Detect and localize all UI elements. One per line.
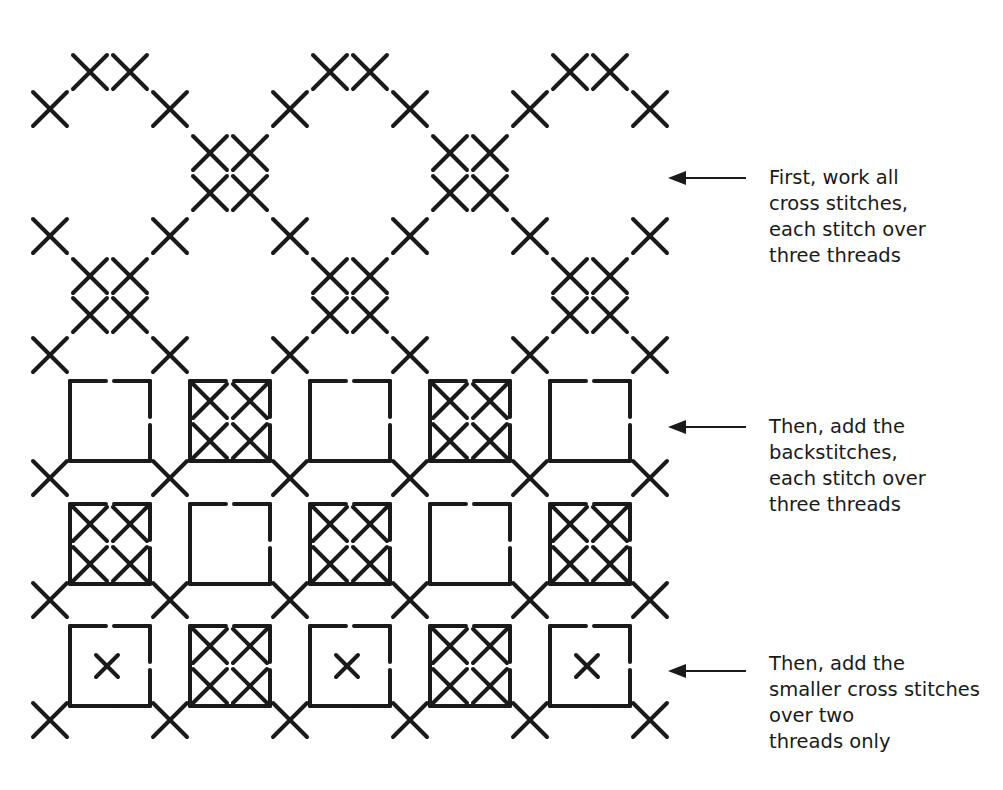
cross-stitch [193, 384, 227, 418]
cross-stitch [153, 703, 187, 737]
annotation-line: each stitch over [769, 466, 926, 492]
cross-stitch [153, 583, 187, 617]
cross-stitch [393, 219, 427, 253]
cross-stitch [593, 55, 627, 89]
annotation-line: three threads [769, 243, 926, 269]
cross-stitch [553, 547, 587, 581]
cross-stitch [433, 384, 467, 418]
annotation-line: three threads [769, 492, 926, 518]
annotation-step-2: Then, add the backstitches, each stitch … [769, 414, 926, 518]
cross-stitch [513, 703, 547, 737]
cross-stitch [273, 92, 307, 126]
cross-stitch [513, 219, 547, 253]
cross-stitch [553, 259, 587, 293]
cross-stitch [633, 461, 667, 495]
cross-stitch [113, 298, 147, 332]
cross-stitch [433, 669, 467, 703]
cross-stitch [233, 669, 267, 703]
cross-stitch [513, 338, 547, 372]
cross-stitch [73, 259, 107, 293]
cross-stitch [473, 136, 507, 170]
cross-stitch [433, 629, 467, 663]
cross-stitch [153, 338, 187, 372]
cross-stitch [433, 424, 467, 458]
cross-stitch [353, 259, 387, 293]
annotation-step-3: Then, add the smaller cross stitches ove… [769, 651, 980, 755]
backstitch-box-filled [190, 381, 270, 461]
cross-stitch [313, 547, 347, 581]
cross-stitch [73, 55, 107, 89]
arrow-left-icon [668, 171, 746, 185]
cross-stitch [353, 547, 387, 581]
cross-stitch [353, 507, 387, 541]
annotation-line: backstitches, [769, 440, 926, 466]
cross-stitch [473, 176, 507, 210]
cross-stitch [353, 55, 387, 89]
backstitch-box-filled [430, 381, 510, 461]
cross-stitch [313, 55, 347, 89]
annotation-line: each stitch over [769, 217, 926, 243]
cross-stitch [273, 461, 307, 495]
arrow-left-icon [668, 664, 746, 678]
annotation-line: Then, add the [769, 651, 980, 677]
cross-stitch [193, 136, 227, 170]
small-cross-stitch [336, 655, 358, 677]
cross-stitch [513, 92, 547, 126]
small-cross-stitch [96, 655, 118, 677]
cross-stitch [633, 92, 667, 126]
cross-stitch [313, 298, 347, 332]
cross-stitch [593, 547, 627, 581]
backstitch-box-small-cross [550, 626, 630, 706]
backstitch-box-empty [310, 381, 390, 461]
stitch-pattern [33, 55, 667, 737]
backstitch-box-filled [310, 504, 390, 584]
cross-stitch [33, 583, 67, 617]
cross-stitch [353, 298, 387, 332]
cross-stitch [313, 259, 347, 293]
backstitch-box-small-cross [310, 626, 390, 706]
cross-stitch [393, 703, 427, 737]
cross-stitch [73, 547, 107, 581]
cross-stitch [153, 219, 187, 253]
cross-stitch [473, 629, 507, 663]
cross-stitch [593, 298, 627, 332]
annotation-step-1: First, work all cross stitches, each sti… [769, 165, 926, 269]
cross-stitch [273, 338, 307, 372]
cross-stitch [233, 136, 267, 170]
cross-stitch [313, 507, 347, 541]
small-cross-stitch [576, 655, 598, 677]
cross-stitch [393, 583, 427, 617]
cross-stitch [273, 583, 307, 617]
cross-stitch [33, 461, 67, 495]
cross-stitch [33, 703, 67, 737]
cross-stitch [233, 424, 267, 458]
cross-stitch [473, 424, 507, 458]
cross-stitch [33, 338, 67, 372]
cross-stitch [433, 176, 467, 210]
cross-stitch [393, 461, 427, 495]
backstitch-box-filled [70, 504, 150, 584]
cross-stitch [193, 629, 227, 663]
backstitch-box-empty [190, 504, 270, 584]
backstitch-box-empty [550, 381, 630, 461]
cross-stitch [513, 583, 547, 617]
cross-stitch [393, 92, 427, 126]
cross-stitch [193, 424, 227, 458]
backstitch-box-filled [430, 626, 510, 706]
cross-stitch [153, 461, 187, 495]
cross-stitch [193, 176, 227, 210]
annotation-line: Then, add the [769, 414, 926, 440]
cross-stitch [73, 298, 107, 332]
cross-stitch [473, 384, 507, 418]
backstitch-box-empty [70, 381, 150, 461]
cross-stitch [473, 669, 507, 703]
cross-stitch [273, 703, 307, 737]
cross-stitch [113, 259, 147, 293]
backstitch-box-filled [190, 626, 270, 706]
cross-stitch [513, 461, 547, 495]
backstitch-box-small-cross [70, 626, 150, 706]
cross-stitch [393, 338, 427, 372]
cross-stitch [193, 669, 227, 703]
annotation-line: threads only [769, 729, 980, 755]
cross-stitch [153, 92, 187, 126]
